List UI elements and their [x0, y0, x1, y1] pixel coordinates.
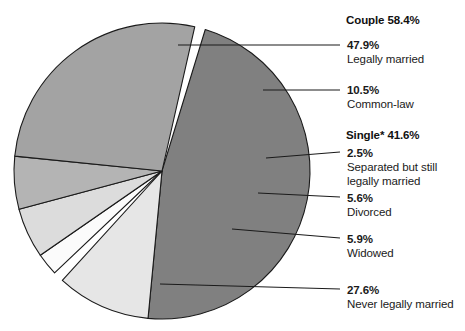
- pie-slice-layer: 47.9% Legally married10.5% Common-law2.5…: [14, 23, 310, 319]
- pie-slice-never-legally-married[interactable]: 27.6% Never legally married: [15, 23, 195, 171]
- group-heading-couple: Couple 58.4%: [346, 14, 420, 26]
- callout-never-married-desc: Never legally married: [347, 297, 454, 311]
- callout-divorced-desc: Divorced: [347, 205, 392, 219]
- callout-legally-married: 47.9% Legally married: [347, 38, 424, 66]
- callout-widowed: 5.9% Widowed: [347, 232, 394, 260]
- callout-legally-married-pct: 47.9%: [347, 38, 424, 52]
- callout-separated-desc1: Separated but still: [347, 160, 437, 174]
- callout-separated: 2.5% Separated but still legally married: [347, 146, 437, 188]
- callout-separated-desc2: legally married: [347, 174, 437, 188]
- callout-separated-pct: 2.5%: [347, 146, 437, 160]
- callout-legally-married-desc: Legally married: [347, 52, 424, 66]
- callout-widowed-pct: 5.9%: [347, 232, 394, 246]
- callout-never-married-pct: 27.6%: [347, 283, 454, 297]
- callout-divorced-pct: 5.6%: [347, 191, 392, 205]
- callout-common-law: 10.5% Common-law: [347, 83, 414, 111]
- group-heading-single: Single* 41.6%: [346, 129, 419, 141]
- callout-divorced: 5.6% Divorced: [347, 191, 392, 219]
- callout-common-law-pct: 10.5%: [347, 83, 414, 97]
- callout-common-law-desc: Common-law: [347, 97, 414, 111]
- pie-chart-figure: 47.9% Legally married10.5% Common-law2.5…: [0, 0, 465, 331]
- callout-widowed-desc: Widowed: [347, 246, 394, 260]
- callout-never-married: 27.6% Never legally married: [347, 283, 454, 311]
